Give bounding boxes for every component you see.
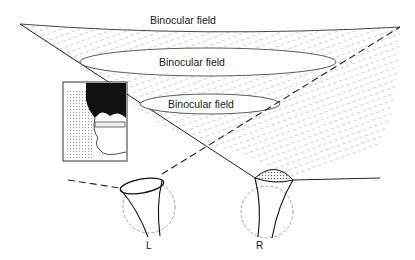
left-eye-outer-sightline	[68, 180, 120, 188]
left-eye	[119, 175, 175, 237]
binocular-field-label-middle: Binocular field	[159, 56, 225, 68]
right-field-edge-line	[293, 178, 380, 180]
binocular-field-diagram	[0, 0, 415, 260]
binocular-field-label-bottom: Binocular field	[168, 98, 234, 110]
head-hair	[86, 83, 126, 118]
right-eye-label: R	[256, 240, 263, 251]
left-eye-label: L	[146, 240, 152, 251]
glasses	[95, 122, 125, 127]
binocular-field-label-top: Binocular field	[150, 14, 216, 26]
right-eye	[241, 169, 293, 238]
